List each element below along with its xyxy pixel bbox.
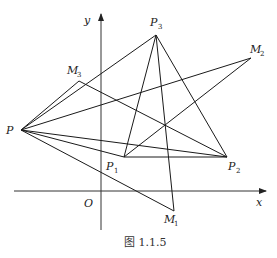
segment-P-P2 bbox=[21, 130, 227, 157]
x-axis-label: x bbox=[256, 196, 263, 209]
segment-P-M1 bbox=[21, 130, 174, 211]
svg-text:2: 2 bbox=[236, 167, 240, 175]
geometry-diagram: x y O P P 1 P 2 P 3 M 1 M 2 M 3 图 1.1.5 bbox=[0, 0, 277, 258]
point-label-M3: M 3 bbox=[66, 64, 81, 79]
figure-caption: 图 1.1.5 bbox=[124, 236, 167, 249]
svg-text:P: P bbox=[5, 124, 14, 137]
segment-P-P1 bbox=[21, 130, 124, 157]
point-label-M1: M 1 bbox=[163, 213, 178, 228]
svg-text:2: 2 bbox=[260, 50, 264, 58]
segment-P-M3 bbox=[21, 81, 79, 130]
svg-text:3: 3 bbox=[77, 71, 81, 79]
svg-text:P: P bbox=[149, 16, 158, 29]
origin-label: O bbox=[84, 197, 93, 210]
point-label-P: P bbox=[5, 124, 14, 137]
y-axis-label: y bbox=[83, 14, 91, 27]
segment-P1-M2 bbox=[124, 58, 251, 157]
point-label-M2: M 2 bbox=[249, 43, 264, 58]
point-label-P3: P 3 bbox=[149, 16, 162, 31]
svg-text:P: P bbox=[105, 160, 114, 173]
segment-P-P3 bbox=[21, 35, 156, 130]
point-label-P1: P 1 bbox=[105, 160, 118, 175]
svg-text:1: 1 bbox=[174, 220, 178, 228]
svg-text:3: 3 bbox=[158, 23, 162, 31]
svg-text:P: P bbox=[227, 160, 236, 173]
segment-P-M2 bbox=[21, 58, 251, 130]
point-label-P2: P 2 bbox=[227, 160, 240, 175]
segments-group bbox=[21, 35, 251, 211]
svg-text:1: 1 bbox=[114, 167, 118, 175]
